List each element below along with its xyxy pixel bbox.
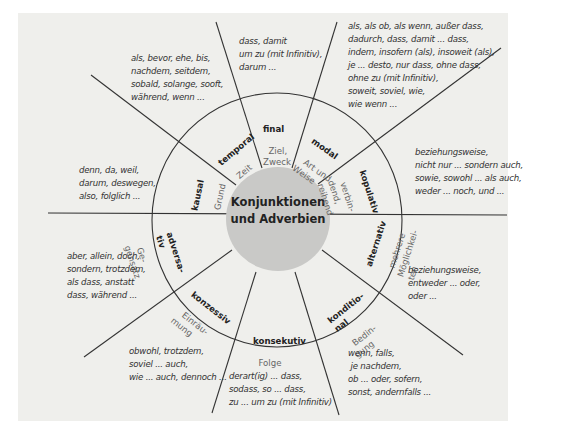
segment-kausal-title: kausal [190,178,207,212]
segment-konsekutiv-subtitle: Folge [258,358,281,368]
segment-konsekutiv-title: konsekutiv [253,336,306,347]
center-title: Konjunktionen und Adverbien [226,194,330,228]
segment-kopulativ-title: kopulativ [357,169,381,215]
examples-adversativ: aber, allein, doch, sondern, trotzdem, a… [67,250,146,302]
examples-temporal: als, bevor, ehe, bis, nachdem, seitdem, … [131,52,223,104]
segment-temporal-title: temporal [216,132,257,169]
center-title-line1: Konjunktionen [226,194,330,211]
examples-konzessiv: obwohl, trotzdem, soviel ... auch, wie .… [129,345,227,384]
examples-final: dass, damit um zu (mit Infinitiv), darum… [239,35,322,74]
examples-kausal: denn, da, weil, darum, deswegen, also, f… [79,164,156,203]
examples-konditional: wenn, falls, je nachdem, ob ... oder, so… [348,347,431,399]
segment-kopulativ-subtitle: verbin- dend, reihend [316,179,357,217]
segment-adversativ-title: adversa- tiv [153,231,187,278]
examples-konsekutiv: derart(ig) ... dass, sodass, so ... dass… [229,370,332,409]
segment-alternativ-title: alternativ [364,219,389,269]
examples-modal: als, als ob, als wenn, außer dass, dadur… [348,20,495,111]
segment-final-title: final [263,124,291,135]
examples-kopulativ: beziehungsweise, nicht nur ... sondern a… [415,146,523,198]
segment-konsekutiv: konsekutiv Folge [253,314,306,369]
center-title-line2: und Adverbien [226,211,330,228]
examples-alternativ: beziehungsweise, entweder ... oder, oder… [408,264,481,303]
